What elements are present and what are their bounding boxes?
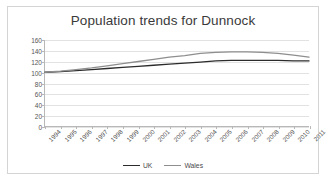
x-axis-label: 2010 [297,128,312,143]
x-axis-label: 1994 [47,128,62,143]
series-lines [45,40,309,126]
x-axis-label: 2006 [234,128,249,143]
x-axis-label: 1997 [94,128,109,143]
x-axis-label: 2009 [281,128,296,143]
y-axis-tick-label: 40 [35,102,42,109]
legend-item-uk[interactable]: UK [123,162,152,169]
x-axis-label: 2005 [219,128,234,143]
legend-item-wales[interactable]: Wales [164,162,203,169]
x-axis-labels: 1994199519961997199819992000200120022003… [44,128,309,160]
x-axis-label: 1999 [125,128,140,143]
x-axis-label: 2008 [265,128,280,143]
legend-line-swatch [164,165,181,166]
legend-line-swatch [123,165,140,166]
y-axis-tick-label: 160 [31,37,42,44]
x-axis-label: 2007 [250,128,265,143]
x-axis-tick-mark [310,126,311,129]
plot-wrapper: 020406080100120140160 [37,40,309,127]
x-axis-label: 1998 [109,128,124,143]
y-axis-tick-label: 140 [31,47,42,54]
chart-legend: UKWales [8,162,318,169]
y-axis-tick-label: 80 [35,80,42,87]
y-axis-tick-label: 100 [31,69,42,76]
chart-title: Population trends for Dunnock [8,13,318,28]
x-axis-label: 2002 [172,128,187,143]
x-axis-label: 2004 [203,128,218,143]
y-axis-tick-label: 20 [35,113,42,120]
chart-frame: Population trends for Dunnock 0204060801… [7,6,319,174]
y-axis-tick-label: 120 [31,58,42,65]
legend-label: Wales [184,162,203,169]
x-axis-label: 2000 [141,128,156,143]
y-axis-tick-label: 60 [35,91,42,98]
legend-label: UK [143,162,152,169]
x-axis-label: 1996 [78,128,93,143]
plot-area: 020406080100120140160 [44,40,309,127]
x-axis-label: 1995 [63,128,78,143]
x-axis-label: 2011 [312,128,326,143]
x-axis-label: 2001 [156,128,171,143]
series-line-uk [45,60,309,72]
x-axis-label: 2003 [187,128,202,143]
series-line-wales [45,52,309,72]
